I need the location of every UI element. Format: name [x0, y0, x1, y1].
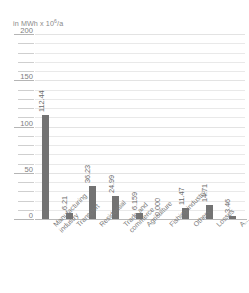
x-axis-category-label: Losses: [215, 223, 221, 229]
y-axis-tick-label: 50: [25, 165, 33, 174]
gridline-major: [35, 173, 245, 174]
gridline-minor: [35, 182, 245, 183]
gridline-minor: [35, 53, 245, 54]
gridline-minor: [35, 191, 245, 192]
gridline-minor: [35, 136, 245, 137]
x-axis-category-label: Trade andcommerce: [122, 223, 133, 234]
y-tick-minor: [18, 90, 34, 91]
y-tick-minor: [18, 201, 34, 202]
y-tick-minor: [18, 99, 34, 100]
y-axis-tick-label: 0: [29, 211, 33, 220]
y-axis-tick-label: 100: [20, 119, 33, 128]
bar-value-label: 11.47: [177, 188, 186, 205]
x-axis-category-label: Manufacturingindustry: [52, 223, 63, 234]
unit-caption-text: in MWh x 10: [13, 19, 54, 28]
y-tick-minor: [18, 108, 34, 109]
y-axis-tick-label: 150: [20, 72, 33, 81]
x-axis-category-label: Agriculture: [145, 223, 151, 229]
y-tick-minor: [18, 43, 34, 44]
plot-area: 112.446.2136.2324.996.1590.00011.4714.71…: [35, 34, 245, 219]
gridline-minor: [35, 71, 245, 72]
x-axis-category-label: A...: [238, 223, 244, 229]
gridline-minor: [35, 154, 245, 155]
gridline-major: [35, 80, 245, 81]
gridline-minor: [35, 99, 245, 100]
bar-value-label: 36.23: [83, 165, 92, 183]
x-axis-category-label: Fishing industry: [168, 223, 174, 229]
x-axis-category-label: Others: [192, 223, 198, 229]
x-axis-category-label: Residential: [98, 223, 104, 229]
y-tick-minor: [18, 53, 34, 54]
bar-value-label: 112.44: [37, 91, 46, 112]
gridline-minor: [35, 90, 245, 91]
y-tick-minor: [18, 136, 34, 137]
y-tick-minor: [18, 182, 34, 183]
y-tick-minor: [18, 145, 34, 146]
x-axis-category-label: Transport: [75, 223, 81, 229]
gridline-minor: [35, 145, 245, 146]
bar-chart: in MWh x 106/a 112.446.2136.2324.996.159…: [0, 0, 249, 293]
gridline-minor: [35, 43, 245, 44]
bar-value-label: 24.99: [107, 175, 116, 193]
gridline-major: [35, 127, 245, 128]
category-labels: ManufacturingindustryTransportResidentia…: [35, 221, 249, 293]
gridline-major: [35, 34, 245, 35]
gridline-minor: [35, 117, 245, 118]
bar: [42, 115, 49, 219]
y-axis-tick-label: 200: [20, 26, 33, 35]
y-tick-minor: [18, 62, 34, 63]
unit-caption-suffix: /a: [57, 19, 63, 28]
gridline-minor: [35, 108, 245, 109]
gridline-minor: [35, 62, 245, 63]
y-tick-minor: [18, 191, 34, 192]
gridline-minor: [35, 164, 245, 165]
y-tick-minor: [18, 154, 34, 155]
